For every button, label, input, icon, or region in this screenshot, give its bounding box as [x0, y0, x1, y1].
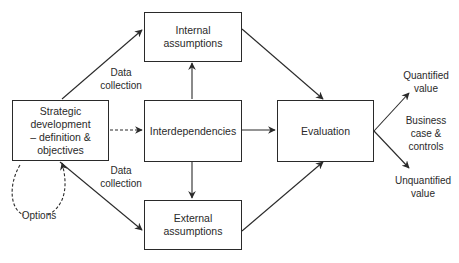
interdependencies-label: Interdependencies [150, 125, 236, 138]
evaluation-box: Evaluation [277, 100, 374, 162]
strategic-development-box: Strategic development – definition & obj… [12, 100, 109, 161]
internal-assumptions-box: Internal assumptions [144, 12, 242, 62]
options-label: Options [14, 209, 64, 222]
unquantified-value-label: Unquantified value [388, 174, 458, 200]
diagram-canvas: Strategic development – definition & obj… [0, 0, 459, 263]
quantified-value-label: Quantified value [394, 69, 458, 95]
strategic-development-label: Strategic development – definition & obj… [30, 105, 91, 157]
arrow-internal-to-evaluation [242, 29, 323, 99]
data-collection-top-label: Data collection [96, 66, 146, 92]
evaluation-label: Evaluation [301, 125, 350, 138]
internal-assumptions-label: Internal assumptions [164, 24, 223, 50]
external-assumptions-box: External assumptions [144, 200, 242, 250]
options-loop-arrow [12, 163, 65, 215]
data-collection-bottom-label: Data collection [96, 164, 146, 190]
business-case-controls-label: Business case & controls [394, 114, 458, 153]
external-assumptions-label: External assumptions [164, 212, 223, 238]
interdependencies-box: Interdependencies [144, 100, 242, 162]
arrow-external-to-evaluation [242, 162, 323, 231]
